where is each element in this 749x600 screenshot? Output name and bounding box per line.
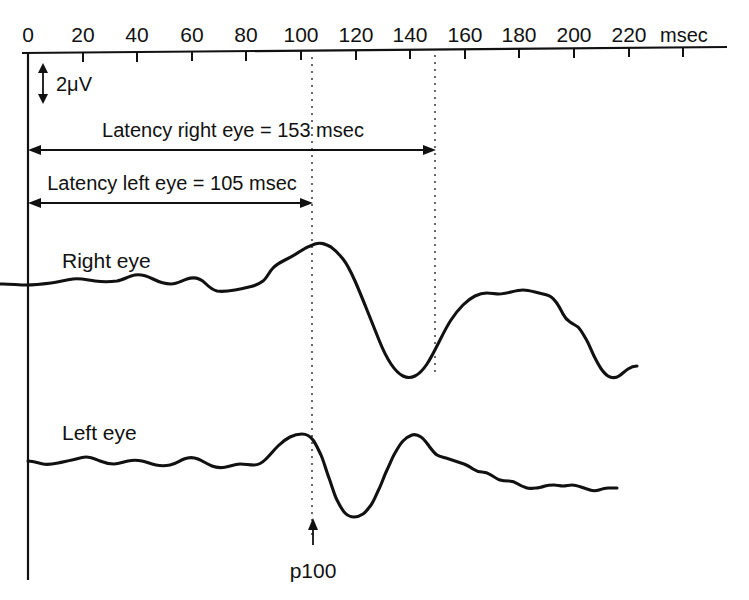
latency-left-arrow-left-icon — [28, 198, 41, 208]
p100-marker-annotation: p100 — [290, 518, 337, 582]
left-eye-trace-label: Left eye — [62, 421, 137, 444]
amplitude-arrow-up-icon — [38, 63, 48, 73]
latency-right-eye-annotation: Latency right eye = 153 msec — [28, 119, 436, 155]
axis-tick-label-140: 140 — [392, 23, 427, 46]
axis-tick-label-220: 220 — [611, 23, 646, 46]
latency-right-arrow-left-icon — [28, 145, 41, 155]
axis-unit-label: msec — [660, 24, 708, 46]
axis-tick-label-40: 40 — [125, 23, 148, 46]
latency-right-eye-label: Latency right eye = 153 msec — [102, 119, 364, 141]
latency-left-arrow-right-icon — [300, 198, 313, 208]
axis-tick-label-0: 0 — [22, 23, 34, 46]
latency-left-eye-label: Latency left eye = 105 msec — [47, 172, 297, 194]
p100-arrow-up-icon — [308, 518, 318, 530]
amplitude-scale-marker: 2μV — [38, 63, 93, 104]
amplitude-arrow-down-icon — [38, 94, 48, 104]
amplitude-scale-label: 2μV — [56, 73, 93, 95]
axis-tick-label-80: 80 — [234, 23, 257, 46]
axis-tick-labels: 0 20 40 60 80 100 120 140 160 180 200 22… — [22, 23, 708, 46]
axis-tick-label-180: 180 — [501, 23, 536, 46]
latency-right-arrow-right-icon — [423, 145, 436, 155]
axis-tick-label-60: 60 — [180, 23, 203, 46]
axis-tick-label-20: 20 — [71, 23, 94, 46]
right-eye-trace-label: Right eye — [62, 249, 151, 272]
latency-left-eye-annotation: Latency left eye = 105 msec — [28, 172, 313, 208]
vep-chart-svg: 0 20 40 60 80 100 120 140 160 180 200 22… — [0, 0, 749, 600]
axis-baseline — [22, 47, 727, 53]
axis-tick-label-120: 120 — [338, 23, 373, 46]
axis-tick-label-200: 200 — [556, 23, 591, 46]
axis-tick-label-100: 100 — [283, 23, 318, 46]
p100-label: p100 — [290, 559, 337, 582]
left-eye-waveform — [28, 434, 617, 517]
axis-tick-label-160: 160 — [447, 23, 482, 46]
vep-figure: 0 20 40 60 80 100 120 140 160 180 200 22… — [0, 0, 749, 600]
